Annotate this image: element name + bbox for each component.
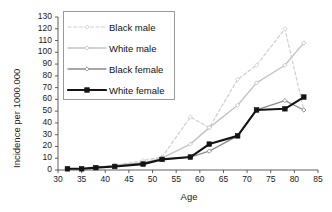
legend-item-white-male[interactable]: White male — [64, 37, 176, 59]
legend-item-black-female[interactable]: Black female — [64, 58, 176, 80]
x-tick-55: 55 — [166, 175, 186, 184]
x-tick-50: 50 — [143, 175, 163, 184]
y-tick-70: 70 — [30, 83, 52, 92]
chart-legend: Black maleWhite maleBlack femaleWhite fe… — [63, 11, 175, 100]
y-tick-10: 10 — [30, 153, 52, 162]
legend-label: White female — [109, 85, 164, 96]
x-tick-45: 45 — [119, 175, 139, 184]
x-tick-65: 65 — [213, 175, 233, 184]
x-tick-80: 80 — [284, 175, 304, 184]
y-tick-50: 50 — [30, 106, 52, 115]
legend-item-white-female[interactable]: White female — [64, 79, 176, 101]
legend-line-swatch-icon — [67, 62, 107, 76]
legend-line-swatch-icon — [67, 20, 107, 34]
legend-item-black-male[interactable]: Black male — [64, 16, 176, 38]
x-axis-title: Age — [58, 191, 320, 202]
y-tick-90: 90 — [30, 59, 52, 68]
x-tick-85: 85 — [308, 175, 328, 184]
legend-line-swatch-icon — [67, 83, 107, 97]
y-tick-20: 20 — [30, 141, 52, 150]
x-tick-35: 35 — [72, 175, 92, 184]
legend-label: Black female — [109, 64, 163, 75]
y-tick-120: 120 — [30, 24, 52, 33]
x-tick-40: 40 — [95, 175, 115, 184]
y-tick-40: 40 — [30, 118, 52, 127]
y-tick-130: 130 — [30, 12, 52, 21]
x-tick-60: 60 — [190, 175, 210, 184]
y-tick-100: 100 — [30, 47, 52, 56]
y-tick-110: 110 — [30, 36, 52, 45]
chart-figure: 1301201101009080706050403020100 30354045… — [0, 0, 332, 212]
x-tick-30: 30 — [48, 175, 68, 184]
y-axis-title: Incidence per 1000.000 — [11, 69, 22, 168]
y-tick-0: 0 — [30, 165, 52, 174]
legend-label: White male — [109, 43, 157, 54]
y-tick-30: 30 — [30, 130, 52, 139]
legend-line-swatch-icon — [67, 41, 107, 55]
y-tick-60: 60 — [30, 94, 52, 103]
x-tick-75: 75 — [261, 175, 281, 184]
y-tick-80: 80 — [30, 71, 52, 80]
legend-label: Black male — [109, 22, 155, 33]
x-tick-70: 70 — [237, 175, 257, 184]
